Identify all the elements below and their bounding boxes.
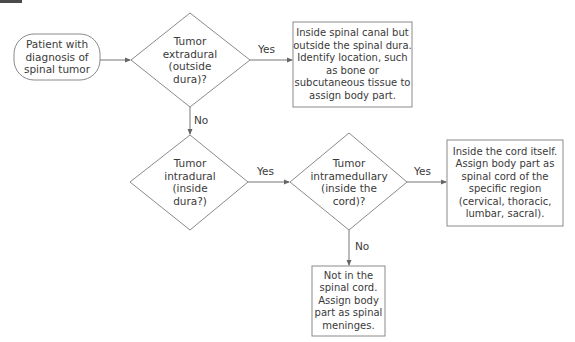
decision-intradural-text: Tumor intradural (inside dura?): [150, 152, 230, 212]
result-intramedullary-text: Inside the cord itself. Assign body part…: [447, 140, 563, 226]
decision-intramedullary-text: Tumor intramedullary (inside the cord)?: [305, 152, 393, 212]
result-extradural-text: Inside spinal canal but outside the spin…: [293, 22, 412, 107]
edge-label-intramedullary-no: No: [355, 240, 369, 252]
result-meninges-text: Not in the spinal cord. Assign body part…: [312, 266, 385, 336]
edge-label-intramedullary-yes: Yes: [414, 165, 431, 177]
decision-extradural-text: Tumor extradural (outside dura)?: [150, 30, 230, 90]
edge-label-extradural-yes: Yes: [258, 43, 275, 55]
edge-label-extradural-no: No: [194, 114, 208, 126]
edge-label-intradural-yes: Yes: [257, 165, 274, 177]
start-node-text: Patient with diagnosis of spinal tumor: [14, 34, 100, 80]
